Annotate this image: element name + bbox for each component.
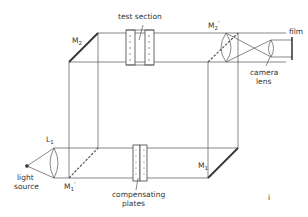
compensating-plates <box>133 145 147 190</box>
camera-lens <box>269 40 274 57</box>
label-film: film <box>289 27 303 36</box>
test-section-leader <box>139 25 143 40</box>
label-m2-prime: M2' <box>208 20 220 31</box>
label-lens: lens <box>256 77 271 86</box>
stray-mark: i <box>268 193 270 202</box>
label-m2: M2 <box>72 36 82 46</box>
mirror-m1 <box>208 148 238 178</box>
test-section <box>126 25 154 65</box>
interferometer-diagram: test section M2 M2' film camera lens L1 … <box>0 0 308 217</box>
label-camera: camera <box>250 68 278 77</box>
label-compensating: compensating <box>112 190 165 199</box>
ray-converge-2 <box>226 40 271 62</box>
label-l1: L1 <box>46 135 54 145</box>
lens-l1 <box>50 148 58 178</box>
label-source-text: source <box>14 182 39 191</box>
ray-converge-1 <box>226 33 271 57</box>
label-m1-prime: M1' <box>64 181 76 192</box>
label-test-section: test section <box>118 12 162 21</box>
label-light: light <box>17 173 34 182</box>
beam-splitter-m1-prime <box>69 148 98 178</box>
label-plates: plates <box>122 199 145 208</box>
camera-lens-leader <box>266 57 270 66</box>
label-m1: M1 <box>198 161 208 171</box>
